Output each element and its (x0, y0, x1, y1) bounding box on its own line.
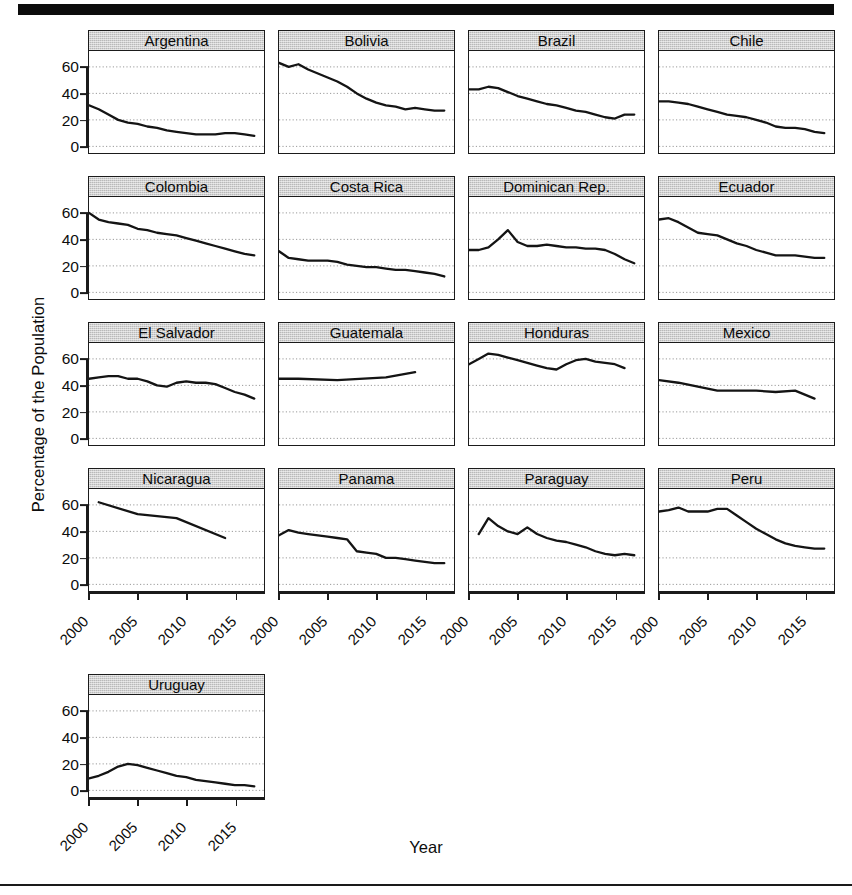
panel-mexico: Mexico (658, 322, 835, 446)
series-line (659, 508, 824, 549)
x-tick-mark (376, 592, 378, 600)
panel-strip-label: Guatemala (278, 322, 455, 343)
y-tick-label: 40 (62, 729, 79, 747)
y-tick-label: 40 (62, 377, 79, 395)
bottom-divider-rule (0, 884, 852, 886)
series-line (279, 251, 444, 276)
x-tick-label: 2015 (394, 612, 430, 648)
panel-strip-label: Paraguay (468, 468, 645, 489)
panel-title: Ecuador (719, 179, 775, 194)
y-axis-row-4: 0204060 (42, 695, 88, 798)
x-tick-mark (236, 798, 238, 806)
y-tick-mark (80, 120, 88, 122)
x-tick-mark (616, 592, 618, 600)
panel-strip-label: Peru (658, 468, 835, 489)
x-tick-mark (517, 592, 519, 600)
panel-plot-area (88, 51, 265, 154)
x-tick-mark (137, 592, 139, 600)
y-tick-mark (80, 531, 88, 533)
x-tick-mark (278, 592, 280, 600)
x-tick-mark (186, 798, 188, 806)
series-line (99, 502, 225, 538)
y-axis-row-2: 0204060 (42, 343, 88, 446)
panel-plot-area (468, 51, 645, 154)
x-tick-mark (806, 592, 808, 600)
x-tick-mark (88, 592, 90, 600)
panel-strip-label: Dominican Rep. (468, 176, 645, 197)
x-axis-row3-col1: 2000200520102015 (278, 592, 455, 656)
x-tick-label: 2015 (204, 612, 240, 648)
panel-plot-area (658, 51, 835, 154)
x-tick-mark (566, 592, 568, 600)
y-tick-mark (80, 558, 88, 560)
x-tick-label: 2005 (105, 818, 141, 854)
y-tick-label: 20 (62, 112, 79, 130)
panel-strip-label: Ecuador (658, 176, 835, 197)
panel-title: Paraguay (524, 471, 588, 486)
y-axis-row-3: 0204060 (42, 489, 88, 592)
x-tick-mark (186, 592, 188, 600)
panel-plot-area (88, 197, 265, 300)
panel-chile: Chile (658, 30, 835, 154)
panel-strip-label: Brazil (468, 30, 645, 51)
y-tick-mark (80, 764, 88, 766)
panel-argentina: Argentina (88, 30, 265, 154)
panel-strip-label: Colombia (88, 176, 265, 197)
panel-dominican-rep: Dominican Rep. (468, 176, 645, 300)
panel-title: Mexico (723, 325, 771, 340)
panel-title: Bolivia (344, 33, 388, 48)
y-tick-mark (80, 737, 88, 739)
y-tick-mark (80, 358, 88, 360)
y-tick-label: 60 (62, 350, 79, 368)
series-line (659, 101, 824, 133)
panel-colombia: Colombia (88, 176, 265, 300)
panel-title: Panama (339, 471, 395, 486)
y-tick-mark (80, 438, 88, 440)
panel-title: Peru (731, 471, 763, 486)
panel-costa-rica: Costa Rica (278, 176, 455, 300)
panel-guatemala: Guatemala (278, 322, 455, 446)
y-axis-spine (86, 67, 88, 147)
y-tick-label: 60 (62, 58, 79, 76)
panel-strip-label: Chile (658, 30, 835, 51)
panel-strip-label: Nicaragua (88, 468, 265, 489)
series-line (89, 105, 254, 135)
panel-el-salvador: El Salvador (88, 322, 265, 446)
x-tick-label: 2010 (154, 818, 190, 854)
panel-strip-label: Honduras (468, 322, 645, 343)
panel-strip-label: El Salvador (88, 322, 265, 343)
panel-plot-area (658, 343, 835, 446)
x-tick-mark (327, 592, 329, 600)
y-tick-label: 0 (70, 576, 79, 594)
x-tick-mark (137, 798, 139, 806)
y-tick-label: 0 (70, 782, 79, 800)
y-tick-label: 0 (70, 284, 79, 302)
x-tick-label: 2005 (485, 612, 521, 648)
y-tick-label: 60 (62, 204, 79, 222)
x-tick-mark (426, 592, 428, 600)
panel-plot-area (278, 197, 455, 300)
y-tick-mark (80, 790, 88, 792)
panel-plot-area (88, 489, 265, 592)
y-tick-label: 0 (70, 430, 79, 448)
y-tick-mark (80, 239, 88, 241)
x-axis-row3-col0: 2000200520102015 (88, 592, 265, 656)
x-axis-spine (468, 592, 645, 594)
x-axis-row3-col3: 2000200520102015 (658, 592, 835, 656)
x-tick-label: 2015 (204, 818, 240, 854)
y-tick-label: 20 (62, 258, 79, 276)
x-tick-mark (756, 592, 758, 600)
x-tick-mark (88, 798, 90, 806)
x-tick-label: 2005 (105, 612, 141, 648)
panel-title: Uruguay (148, 677, 205, 692)
y-tick-label: 40 (62, 523, 79, 541)
y-axis-spine (86, 213, 88, 293)
panel-plot-area (88, 343, 265, 446)
x-tick-label: 2010 (534, 612, 570, 648)
panel-strip-label: Mexico (658, 322, 835, 343)
series-line (659, 380, 815, 399)
panel-bolivia: Bolivia (278, 30, 455, 154)
y-tick-label: 20 (62, 404, 79, 422)
x-tick-mark (236, 592, 238, 600)
y-tick-mark (80, 212, 88, 214)
